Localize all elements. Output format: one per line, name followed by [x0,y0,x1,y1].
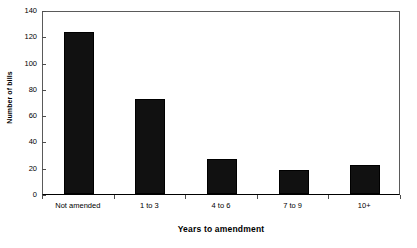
x-axis-tick-mark [42,195,43,199]
bar-chart: Number of bills 020406080100120140 Not a… [0,0,417,248]
x-axis-tick-label: Not amended [42,201,114,211]
x-axis-tick-mark [114,195,115,199]
y-axis-tick-mark [42,64,46,65]
y-axis-tick-mark [42,142,46,143]
x-axis-tick-mark [185,195,186,199]
x-axis-tick-mark [400,195,401,199]
y-axis-tick-label: 20 [29,165,37,173]
x-axis-tick-label: 7 to 9 [257,201,329,211]
y-axis-title-text: Number of bills [6,71,13,123]
bars-layer [43,12,399,194]
plot-area [42,11,400,195]
y-axis-tick-label: 120 [24,33,37,41]
y-axis-tick-label: 60 [29,112,37,120]
x-axis-tick-mark [328,195,329,199]
y-axis-tick-mark [42,116,46,117]
y-axis-tick-label: 80 [29,86,37,94]
x-axis-title: Years to amendment [42,224,400,234]
x-axis-tick-label: 4 to 6 [185,201,257,211]
y-axis-title: Number of bills [0,0,18,195]
x-axis-tick-labels: Not amended1 to 34 to 67 to 910+ [42,201,400,213]
y-axis-tick-mark [42,37,46,38]
y-axis-tick-label: 100 [24,60,37,68]
bar [64,32,94,194]
bar [135,99,165,194]
y-axis-tick-label: 40 [29,138,37,146]
y-axis-tick-mark [42,90,46,91]
y-axis-tick-mark [42,11,46,12]
x-axis-tick-label: 1 to 3 [114,201,186,211]
bar [279,170,309,194]
x-axis-tick-mark [257,195,258,199]
y-axis-tick-labels: 020406080100120140 [18,0,40,248]
x-axis-tick-label: 10+ [328,201,400,211]
bar [207,159,237,194]
y-axis-tick-label: 140 [24,7,37,15]
y-axis-tick-mark [42,169,46,170]
bar [350,165,380,194]
y-axis-tick-label: 0 [33,191,37,199]
